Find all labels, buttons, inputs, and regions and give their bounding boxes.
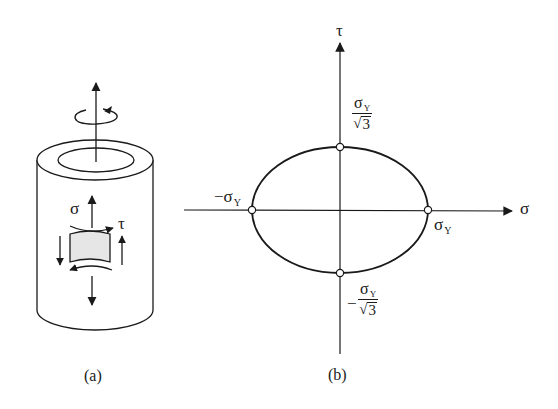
label-right-sigma-y: σY xyxy=(434,216,451,233)
point-right xyxy=(424,206,431,213)
sigma-axis xyxy=(184,210,512,211)
tau-axis-label: τ xyxy=(336,22,343,39)
point-left xyxy=(248,206,255,213)
point-top xyxy=(336,143,343,150)
label-top-sigma-y-over-root3: σY √3 xyxy=(352,95,372,132)
panel-b-drawing xyxy=(0,0,558,409)
point-bottom xyxy=(336,269,343,276)
panel-b-caption: (b) xyxy=(328,367,347,383)
label-bottom-minus: − xyxy=(347,295,357,312)
label-bottom-neg-sigma-y-over-root3: σY √3 xyxy=(358,281,378,318)
label-left-neg-sigma-y: −σY xyxy=(214,188,241,205)
sigma-axis-label: σ xyxy=(520,200,529,217)
